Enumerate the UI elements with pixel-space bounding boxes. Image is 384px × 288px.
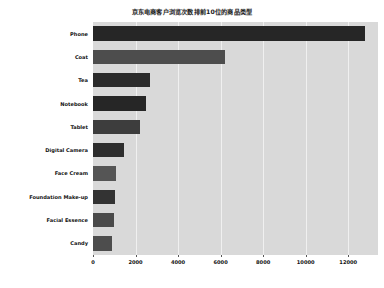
y-axis-tick-label: Foundation Make-up <box>0 194 88 200</box>
x-axis-tick-label: 2000 <box>128 259 142 265</box>
bar-chart-figure: 京东电商客户浏览次数排前10位的商品类型 PhoneCoatTeaNoteboo… <box>0 0 384 288</box>
x-axis-tick-label: 8000 <box>256 259 270 265</box>
y-axis-tick-label: Tablet <box>0 124 88 130</box>
x-axis-tick-mark <box>136 255 137 257</box>
y-axis-tick-label: Face Cream <box>0 170 88 176</box>
x-axis-tick-mark <box>263 255 264 257</box>
x-axis-tick-label: 6000 <box>214 259 228 265</box>
x-axis-tick-mark <box>93 255 94 257</box>
y-axis-tick-label: Tea <box>0 77 88 83</box>
y-axis-tick-label: Coat <box>0 54 88 60</box>
y-axis-tick-label: Facial Essence <box>0 217 88 223</box>
y-axis-tick-label: Digital Camera <box>0 147 88 153</box>
y-axis-tick-label: Phone <box>0 31 88 37</box>
y-axis-tick-label: Candy <box>0 240 88 246</box>
x-axis-tick-mark <box>178 255 179 257</box>
x-axis-tick-label: 4000 <box>171 259 185 265</box>
x-axis-tick-mark <box>306 255 307 257</box>
chart-title: 京东电商客户浏览次数排前10位的商品类型 <box>0 7 384 16</box>
y-axis-tick-label: Notebook <box>0 101 88 107</box>
x-axis-tick-label: 12000 <box>339 259 357 265</box>
x-axis-tick-label: 0 <box>91 259 95 265</box>
x-axis-tick-label: 10000 <box>297 259 315 265</box>
x-axis-tick-mark <box>348 255 349 257</box>
x-axis: 020004000600080001000012000 <box>93 255 378 275</box>
x-axis-tick-mark <box>221 255 222 257</box>
y-axis-labels: PhoneCoatTeaNotebookTabletDigital Camera… <box>0 22 384 255</box>
